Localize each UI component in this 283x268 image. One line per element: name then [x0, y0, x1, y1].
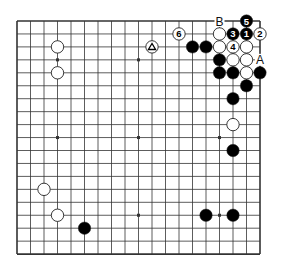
star-point — [56, 58, 59, 61]
stone-circle — [213, 54, 225, 66]
point-label-a: A — [256, 53, 264, 67]
black-stone — [200, 209, 212, 221]
stone-circle — [227, 209, 239, 221]
white-stone — [51, 41, 63, 53]
go-board-diagram: BA 563124 — [0, 0, 283, 268]
black-stone — [227, 67, 239, 79]
star-point — [218, 136, 221, 139]
stone-circle — [240, 54, 252, 66]
stone-circle — [227, 67, 239, 79]
stone-circle — [51, 41, 63, 53]
stone-circle — [227, 54, 239, 66]
stone-circle — [227, 118, 239, 130]
go-board: BA 563124 — [0, 0, 283, 268]
black-stone — [227, 209, 239, 221]
white-stone — [51, 209, 63, 221]
white-stone: 2 — [254, 28, 266, 40]
black-stone — [227, 93, 239, 105]
point-label-b: B — [215, 15, 223, 29]
move-number: 1 — [244, 28, 250, 39]
stone-circle — [240, 80, 252, 92]
white-stone — [213, 28, 225, 40]
stone-circle — [227, 93, 239, 105]
stone-circle — [254, 67, 266, 79]
stone-circle — [186, 41, 198, 53]
stone-circle — [227, 144, 239, 156]
white-stone: 4 — [227, 41, 239, 53]
stone-circle — [200, 209, 212, 221]
white-stone: 6 — [173, 28, 185, 40]
black-stone — [213, 67, 225, 79]
star-point — [56, 136, 59, 139]
black-stone — [78, 222, 90, 234]
stone-circle — [38, 183, 50, 195]
white-stone — [51, 67, 63, 79]
star-point — [137, 58, 140, 61]
stone-circle — [78, 222, 90, 234]
black-stone: 1 — [240, 28, 252, 40]
star-point — [218, 214, 221, 217]
stone-circle — [240, 67, 252, 79]
white-stone — [227, 54, 239, 66]
move-number: 4 — [230, 41, 236, 52]
move-number: 5 — [244, 16, 250, 27]
white-stone — [38, 183, 50, 195]
stone-circle — [213, 28, 225, 40]
white-stone — [227, 118, 239, 130]
black-stone — [186, 41, 198, 53]
white-stone — [213, 41, 225, 53]
black-stone — [213, 54, 225, 66]
black-stone: 3 — [227, 28, 239, 40]
white-stone — [240, 54, 252, 66]
stone-circle — [51, 67, 63, 79]
white-stone — [240, 41, 252, 53]
black-stone — [254, 67, 266, 79]
black-stone — [200, 41, 212, 53]
stone-circle — [213, 67, 225, 79]
black-stone: 5 — [240, 15, 252, 27]
stone-circle — [200, 41, 212, 53]
star-point — [137, 214, 140, 217]
black-stone — [240, 80, 252, 92]
stone-circle — [213, 41, 225, 53]
black-stone — [227, 144, 239, 156]
stone-circle — [51, 209, 63, 221]
move-number: 3 — [230, 28, 235, 39]
stone-circle — [240, 41, 252, 53]
move-number: 2 — [257, 28, 262, 39]
white-stone — [240, 67, 252, 79]
star-point — [137, 136, 140, 139]
move-number: 6 — [176, 28, 181, 39]
white-stone — [146, 41, 158, 53]
